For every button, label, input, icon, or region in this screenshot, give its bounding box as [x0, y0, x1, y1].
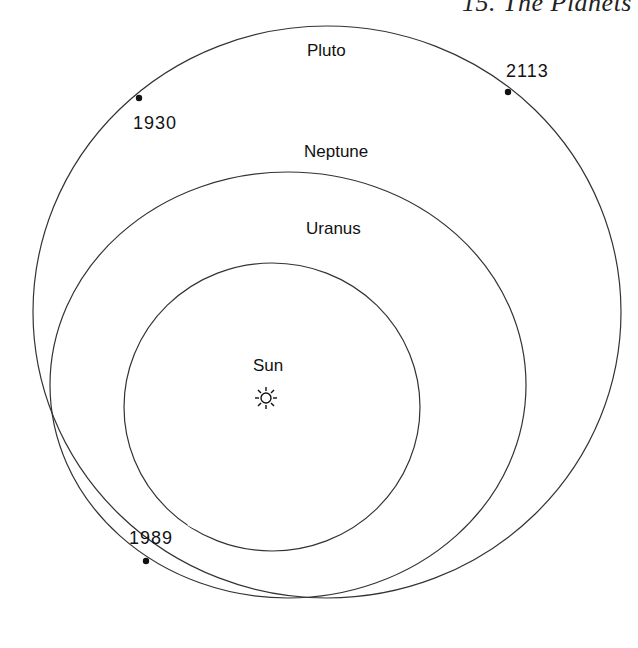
pluto-position-1989-dot	[143, 558, 149, 564]
neptune-orbit	[50, 172, 526, 598]
year-1989-label: 1989	[129, 528, 173, 549]
sun-label: Sun	[253, 356, 283, 376]
pluto-label: Pluto	[307, 41, 346, 61]
orbit-diagram	[0, 0, 638, 648]
uranus-orbit	[124, 263, 420, 551]
year-1930-label: 1930	[133, 113, 177, 134]
pluto-position-2113-dot	[505, 89, 511, 95]
pluto-position-1930-dot	[136, 95, 142, 101]
neptune-label: Neptune	[304, 142, 368, 162]
year-2113-label: 2113	[506, 61, 549, 82]
sun-icon	[255, 387, 277, 409]
pluto-orbit	[33, 26, 621, 598]
uranus-label: Uranus	[306, 219, 361, 239]
